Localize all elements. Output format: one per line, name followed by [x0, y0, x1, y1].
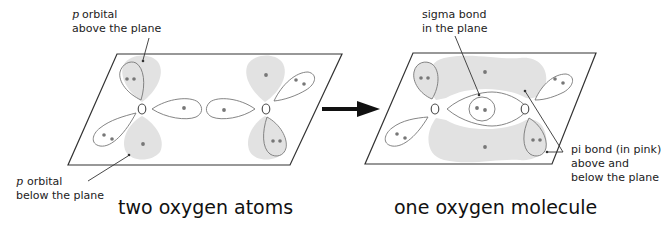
- electron: [278, 139, 282, 143]
- electron: [483, 145, 487, 149]
- electron: [110, 137, 114, 141]
- pointer-tip-icon: [524, 90, 527, 93]
- oxygen-nucleus-left: [138, 104, 146, 114]
- electron: [419, 76, 423, 80]
- electron: [264, 73, 268, 77]
- lone-pair-lobe-ul: [414, 62, 438, 99]
- label-line: pi bond (in pink): [571, 143, 661, 156]
- electron: [553, 77, 557, 81]
- annotation-p-below: p orbital below the plane: [16, 154, 130, 202]
- electron: [132, 77, 136, 81]
- label-line: orbital: [27, 175, 62, 188]
- electron: [475, 106, 479, 110]
- sp-lobe-left: [152, 99, 202, 119]
- lone-pair-lobe-ll: [385, 117, 428, 146]
- electron: [302, 82, 306, 86]
- electron: [426, 76, 430, 80]
- electron: [141, 142, 145, 146]
- oxygen-nucleus-right: [521, 104, 529, 114]
- electron: [483, 70, 487, 74]
- electron: [531, 138, 535, 142]
- label-line: orbital: [82, 8, 117, 21]
- label-line: above and: [571, 157, 629, 170]
- electron: [538, 138, 542, 142]
- left-plane: [68, 54, 342, 165]
- right-atom: [206, 55, 314, 159]
- electron: [395, 132, 399, 136]
- left-panel: p orbital above the plane p orbital belo…: [16, 8, 342, 218]
- sigma-bond: [447, 92, 528, 126]
- oxygen-nucleus-right: [262, 104, 270, 114]
- caption-two-oxygen-atoms: two oxygen atoms: [118, 196, 293, 218]
- p-symbol: p: [72, 8, 79, 21]
- oxygen-bonding-diagram: p orbital above the plane p orbital belo…: [0, 0, 672, 226]
- electron: [125, 77, 129, 81]
- label-line: above the plane: [72, 22, 162, 35]
- label-line: below the plane: [571, 171, 659, 184]
- pointer-tip-icon: [478, 94, 481, 97]
- lone-pair-lobe-lr: [524, 118, 546, 156]
- label-line: in the plane: [422, 22, 488, 35]
- electron: [102, 133, 106, 137]
- right-panel: sigma bond in the plane pi bond (in pink…: [365, 8, 661, 218]
- electron: [222, 108, 226, 112]
- pointer-line: [88, 156, 128, 181]
- label-line: below the plane: [16, 189, 104, 202]
- electron: [561, 81, 565, 85]
- oxygen-nucleus-left: [431, 104, 439, 114]
- electron: [403, 136, 407, 140]
- caption-one-oxygen-molecule: one oxygen molecule: [394, 196, 597, 218]
- pointer-tip-icon: [128, 154, 131, 157]
- pointer-tip-icon: [546, 151, 549, 154]
- electron: [182, 106, 186, 110]
- label-line: sigma bond: [422, 8, 486, 21]
- electron: [294, 78, 298, 82]
- p-symbol: p: [16, 175, 23, 188]
- p-lobe-below-right: [248, 116, 286, 160]
- sp-lobe-right: [206, 99, 255, 119]
- electron: [483, 108, 487, 112]
- pointer-tip-icon: [142, 60, 145, 63]
- electron: [271, 139, 275, 143]
- transition-arrow-icon: [322, 101, 380, 117]
